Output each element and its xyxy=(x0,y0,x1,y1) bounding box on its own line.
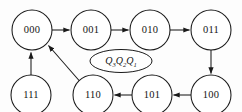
state-node-101[interactable]: 101 xyxy=(132,75,172,112)
node-label-000: 000 xyxy=(24,24,40,35)
node-label-010: 010 xyxy=(142,24,158,35)
state-diagram: Q3Q2Q1 000 001 010 011 100 xyxy=(0,0,242,112)
q1-subscript: 1 xyxy=(134,60,137,67)
state-diagram-canvas: Q3Q2Q1 000 001 010 011 100 xyxy=(0,0,242,112)
node-label-101: 101 xyxy=(144,89,160,100)
state-node-110[interactable]: 110 xyxy=(73,75,113,112)
state-node-010[interactable]: 010 xyxy=(130,10,170,50)
state-node-001[interactable]: 001 xyxy=(71,10,111,50)
node-label-110: 110 xyxy=(85,89,101,100)
state-node-111[interactable]: 111 xyxy=(11,75,51,112)
node-label-111: 111 xyxy=(23,89,39,100)
state-node-011[interactable]: 011 xyxy=(191,10,231,50)
state-node-000[interactable]: 000 xyxy=(12,10,52,50)
state-node-100[interactable]: 100 xyxy=(191,75,231,112)
node-label-011: 011 xyxy=(203,24,219,35)
node-label-100: 100 xyxy=(203,89,219,100)
edge-110-to-000 xyxy=(49,46,80,82)
node-label-001: 001 xyxy=(83,24,99,35)
center-label-group: Q3Q2Q1 xyxy=(90,50,152,73)
center-label-text: Q3Q2Q1 xyxy=(105,55,137,67)
